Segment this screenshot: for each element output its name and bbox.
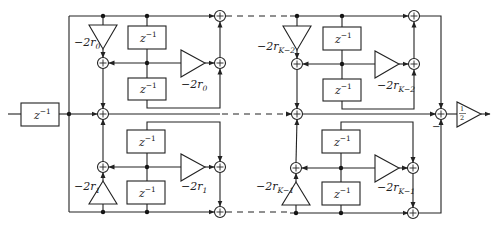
gain-label-right-rK-2: −2rK−2 (377, 79, 415, 94)
lower-section-last: −2rK−1 z−1 −2rK−1 z−1 (256, 120, 441, 219)
wire (420, 16, 442, 109)
gain-triangle-right-rK-2 (375, 51, 399, 78)
gain-label-right-r0: −2r0 (181, 78, 207, 93)
gain-label-rK-1: −2rK−1 (256, 180, 294, 195)
wire (419, 120, 442, 214)
gain-label-right-r1: −2r1 (181, 180, 207, 195)
output-gain-denominator: 2 (460, 114, 464, 122)
gain-triangle-right-rK-1 (375, 155, 399, 182)
gain-triangle-right-r0 (181, 50, 205, 77)
diagram-canvas: z−1 −2r0 z−1 (0, 0, 501, 228)
lattice-block-diagram: z−1 −2r0 z−1 (0, 0, 501, 228)
middle-line (98, 109, 436, 120)
gain-triangle-right-r1 (181, 154, 205, 181)
wire (296, 120, 297, 163)
gain-label-rK-2: −2rK−2 (257, 40, 295, 55)
output-gain-numerator: 1 (460, 105, 464, 113)
upper-section-first: −2r0 z−1 −2r0 z−1 (69, 11, 290, 109)
lower-section-first: −2r1 z−1 −2r1 z−1 (69, 120, 290, 218)
gain-label-r1: −2r1 (74, 180, 100, 195)
minus-sign-label: − (432, 121, 440, 132)
upper-section-last: −2rK−2 z−1 −2rK−2 z−1 (257, 11, 441, 110)
gain-label-right-rK-1: −2rK−1 (377, 181, 415, 196)
